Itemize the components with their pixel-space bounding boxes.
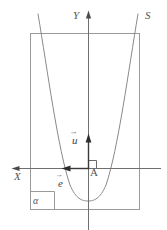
vector-u-label: u [72, 131, 78, 147]
figure-canvas [0, 0, 167, 230]
y-axis-arrowhead-icon [86, 11, 91, 19]
vector-e-label: e [58, 174, 63, 190]
y-axis-label: Y [73, 10, 79, 21]
vector-u-letter: u [72, 134, 78, 146]
plane-label-alpha: α [33, 196, 38, 206]
vector-u-arrowhead-icon [86, 134, 92, 143]
x-axis-label: X [14, 171, 21, 182]
geometry-figure: Y S X A α u e [0, 0, 167, 230]
curve-label-s: S [145, 10, 151, 21]
origin-point-label: A [90, 167, 98, 178]
plane-alpha-rectangle [31, 34, 140, 210]
vector-e-letter: e [58, 177, 63, 189]
